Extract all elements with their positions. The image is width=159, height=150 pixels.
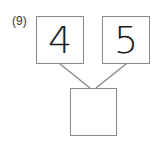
answer-box[interactable] [70, 88, 117, 136]
left-connector-line [60, 64, 90, 88]
right-connector-line [96, 64, 126, 88]
